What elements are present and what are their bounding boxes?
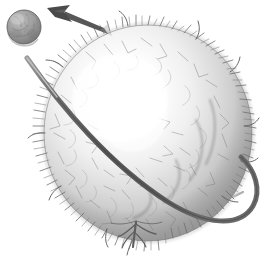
- illustration-svg: [0, 0, 268, 263]
- small-sphere[interactable]: [7, 10, 41, 46]
- figure-canvas: Fuzzy sphere with orbital ring and eject…: [0, 0, 268, 263]
